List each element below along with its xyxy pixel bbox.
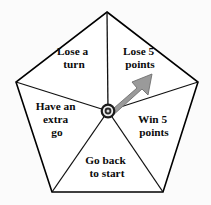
sector-line: Lose a — [57, 45, 88, 57]
sector-label-lose-5-points: Lose 5 points — [123, 45, 157, 70]
sector-line: extra — [43, 113, 68, 125]
sector-label-go-back-to-start: Go back to start — [85, 154, 128, 179]
sector-line: points — [125, 58, 155, 70]
spinner-canvas: Lose a turn Lose 5 points Have an extra … — [0, 0, 211, 205]
sector-line: Win 5 — [138, 113, 167, 125]
sector-line: Go back — [85, 154, 126, 166]
spinner-figure: Lose a turn Lose 5 points Have an extra … — [0, 0, 211, 205]
sector-line: Lose 5 — [123, 45, 154, 57]
sector-line: Have an — [36, 100, 77, 112]
hub-core — [107, 110, 110, 113]
sector-label-win-5-points: Win 5 points — [138, 113, 170, 138]
sector-line: to start — [90, 167, 125, 179]
sector-line: turn — [63, 58, 85, 70]
sector-line: go — [51, 126, 63, 138]
spinner-hub — [101, 104, 116, 119]
sector-line: points — [139, 126, 169, 138]
